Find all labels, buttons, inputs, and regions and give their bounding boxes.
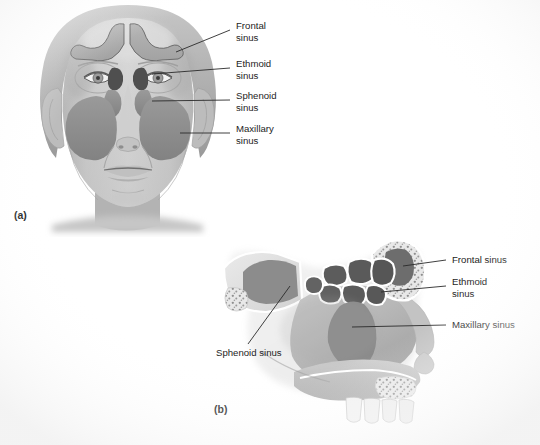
figure-canvas: Frontal sinus Ethmoid sinus Sphenoid sin… bbox=[0, 0, 540, 445]
sinus-figure: Frontal sinus Ethmoid sinus Sphenoid sin… bbox=[0, 0, 540, 445]
scan-vignette bbox=[0, 0, 540, 445]
